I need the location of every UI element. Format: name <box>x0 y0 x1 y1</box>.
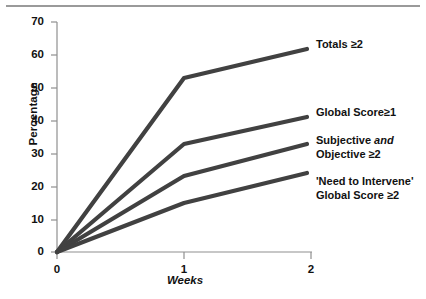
series-label-subjective-objective: Subjective andObjective ≥2 <box>316 134 394 161</box>
y-tick-label-20: 20 <box>18 180 44 192</box>
series-label-global-score-ge1: Global Score≥1 <box>316 106 396 120</box>
series-label-subjective-line1-em: and <box>374 134 394 146</box>
chart-figure: 70 60 50 40 30 20 10 0 0 1 2 Percentage … <box>0 0 426 299</box>
series-label-need-line1: 'Need to Intervene' <box>316 175 414 187</box>
y-axis-title: Percentage <box>27 59 39 169</box>
series-label-need-line2: Global Score ≥2 <box>316 189 399 201</box>
y-tick-label-0: 0 <box>18 245 44 257</box>
series-label-subjective-line2: Objective ≥2 <box>316 148 381 160</box>
x-tick-label-2: 2 <box>301 263 321 275</box>
x-axis-ticks <box>57 252 311 259</box>
series-line-need-to-intervene <box>57 173 307 252</box>
y-tick-label-10: 10 <box>18 213 44 225</box>
x-tick-label-0: 0 <box>47 263 67 275</box>
series-label-totals: Totals ≥2 <box>316 38 363 52</box>
series-label-need-to-intervene: 'Need to Intervene'Global Score ≥2 <box>316 175 414 202</box>
x-axis-title: Weeks <box>150 274 220 286</box>
y-tick-label-70: 70 <box>18 15 44 27</box>
series-label-subjective-line1-pre: Subjective <box>316 134 374 146</box>
y-axis-ticks <box>51 22 57 252</box>
